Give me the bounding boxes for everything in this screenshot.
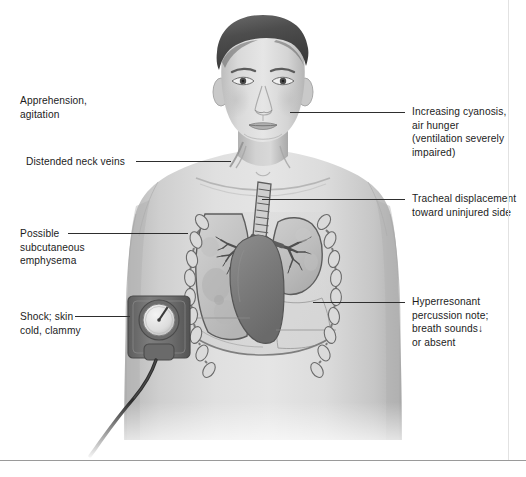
leader-line-tracheal-displacement: [262, 199, 405, 200]
leader-line-hyperresonance: [313, 302, 405, 303]
figure-root: Apprehension, agitation Distended neck v…: [0, 0, 526, 477]
label-apprehension-agitation: Apprehension, agitation: [20, 94, 170, 121]
label-subcutaneous-emphysema: Possible subcutaneous emphysema: [20, 227, 140, 268]
label-distended-neck-veins: Distended neck veins: [26, 155, 176, 169]
frame-rule-right: [508, 0, 509, 461]
frame-rule-bottom: [0, 460, 526, 461]
leader-line-cyanosis: [290, 112, 405, 113]
label-shock-skin-cold-clammy: Shock; skin cold, clammy: [20, 310, 140, 337]
